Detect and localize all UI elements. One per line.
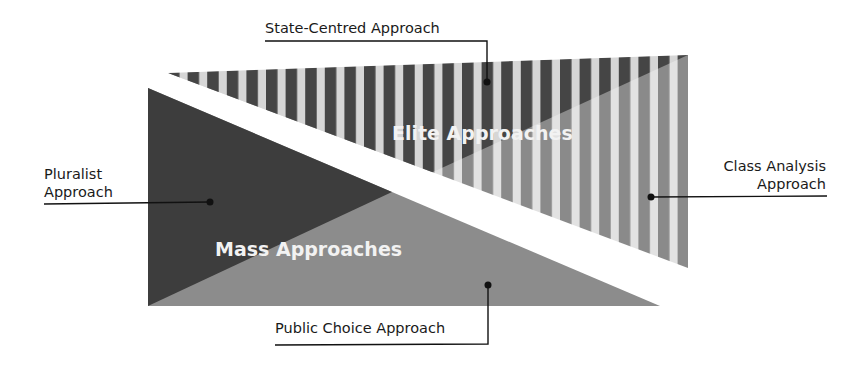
public-choice-label: Public Choice Approach [275, 320, 445, 336]
pluralist-label-line2: Approach [44, 184, 113, 200]
public-choice-dot [485, 282, 492, 289]
class-analysis-dot [648, 194, 655, 201]
state-centred-dot [484, 79, 491, 86]
elite-approaches-label: Elite Approaches [392, 122, 573, 144]
mass-approaches-label: Mass Approaches [215, 238, 402, 260]
approaches-diagram: Elite Approaches Mass Approaches State-C… [0, 0, 862, 374]
class-analysis-label-line2: Approach [757, 176, 826, 192]
class-analysis-label-line1: Class Analysis [724, 158, 827, 174]
pluralist-label-line1: Pluralist [44, 166, 102, 182]
pluralist-dot [207, 199, 214, 206]
state-centred-label: State-Centred Approach [265, 20, 440, 36]
